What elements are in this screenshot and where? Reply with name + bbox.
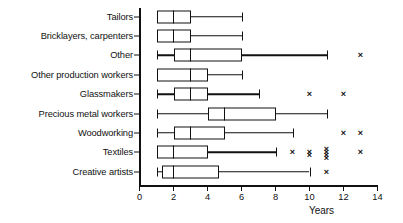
median-line <box>173 165 175 178</box>
whisker-cap-left <box>157 128 159 137</box>
y-axis-category-label: Glassmakers <box>80 89 133 99</box>
x-axis-tick <box>343 186 344 191</box>
whisker-right <box>219 171 309 173</box>
median-line <box>173 10 175 23</box>
whisker-cap-right <box>310 167 312 176</box>
median-line <box>224 107 226 120</box>
outlier-marker: × <box>341 90 346 99</box>
outlier-marker: × <box>307 90 312 99</box>
whisker-cap-left <box>157 51 159 60</box>
whisker-cap-left <box>157 90 159 99</box>
y-axis-category-label: Textiles <box>103 147 133 157</box>
median-line <box>190 49 192 62</box>
box <box>174 126 225 139</box>
whisker-cap-right <box>327 51 329 60</box>
outlier-marker: × <box>358 148 363 157</box>
y-axis-category-label: Other production workers <box>31 70 133 80</box>
y-axis-category-label: Tailors <box>107 12 133 22</box>
whisker-cap-left <box>157 109 159 118</box>
median-line <box>190 88 192 101</box>
x-axis-tick <box>309 186 310 191</box>
y-axis-tick <box>134 74 139 75</box>
whisker-left <box>157 93 174 95</box>
outlier-marker: × <box>324 167 329 176</box>
whisker-left <box>157 132 174 134</box>
x-axis-tick <box>173 186 174 191</box>
box <box>157 146 208 159</box>
x-axis-tick <box>377 186 378 191</box>
whisker-cap-right <box>293 128 295 137</box>
boxplot-chart: TailorsBricklayers, carpentersOtherOther… <box>0 0 403 223</box>
whisker-cap-right <box>259 90 261 99</box>
x-axis-tick <box>207 186 208 191</box>
box <box>162 165 220 178</box>
whisker-left <box>157 55 174 57</box>
x-axis-tick <box>275 186 276 191</box>
y-axis-tick <box>134 55 139 56</box>
y-axis-tick <box>134 152 139 153</box>
box <box>208 107 276 120</box>
y-axis-tick <box>134 35 139 36</box>
whisker-cap-right <box>242 70 244 79</box>
box <box>174 49 242 62</box>
whisker-cap-right <box>242 31 244 40</box>
y-axis-line <box>139 8 141 186</box>
x-axis-tick-label: 8 <box>273 192 278 203</box>
x-axis-tick-label: 14 <box>372 192 382 203</box>
x-axis-tick <box>241 186 242 191</box>
outlier-marker: × <box>324 154 329 163</box>
y-axis-category-label: Precious metal workers <box>39 109 133 119</box>
y-axis-category-label: Creative artists <box>73 167 133 177</box>
y-axis-category-label: Other <box>110 50 133 60</box>
outlier-marker: × <box>358 128 363 137</box>
x-axis-tick-label: 4 <box>205 192 210 203</box>
x-axis-title-text: Years <box>309 205 334 216</box>
whisker-right <box>242 55 327 57</box>
median-line <box>190 68 192 81</box>
y-axis-tick <box>134 16 139 17</box>
y-axis-tick <box>134 171 139 172</box>
whisker-right <box>276 113 327 115</box>
y-axis-tick <box>134 94 139 95</box>
box <box>157 68 208 81</box>
whisker-right <box>208 74 242 76</box>
outlier-marker: × <box>341 128 346 137</box>
x-axis-tick-label: 0 <box>137 192 142 203</box>
outlier-marker: × <box>358 51 363 60</box>
whisker-left <box>157 113 208 115</box>
whisker-right <box>191 16 242 18</box>
y-axis-tick <box>134 132 139 133</box>
whisker-cap-right <box>327 109 329 118</box>
whisker-right <box>208 93 259 95</box>
y-axis-category-label: Woodworking <box>78 128 133 138</box>
median-line <box>173 146 175 159</box>
x-axis-tick <box>139 186 140 191</box>
whisker-right <box>191 35 242 37</box>
outlier-marker: × <box>307 151 312 160</box>
median-line <box>190 126 192 139</box>
y-axis-tick <box>134 113 139 114</box>
x-axis-tick-label: 12 <box>338 192 348 203</box>
whisker-cap-right <box>242 12 244 21</box>
whisker-right <box>208 152 276 154</box>
whisker-cap-right <box>276 148 278 157</box>
y-axis-category-label: Bricklayers, carpenters <box>41 31 133 41</box>
whisker-cap-left <box>157 167 159 176</box>
x-axis-title: Years <box>0 205 403 216</box>
whisker-right <box>225 132 293 134</box>
x-axis-tick-label: 6 <box>239 192 244 203</box>
x-axis-tick-label: 2 <box>171 192 176 203</box>
outlier-marker: × <box>290 148 295 157</box>
median-line <box>173 29 175 42</box>
x-axis-tick-label: 10 <box>304 192 314 203</box>
